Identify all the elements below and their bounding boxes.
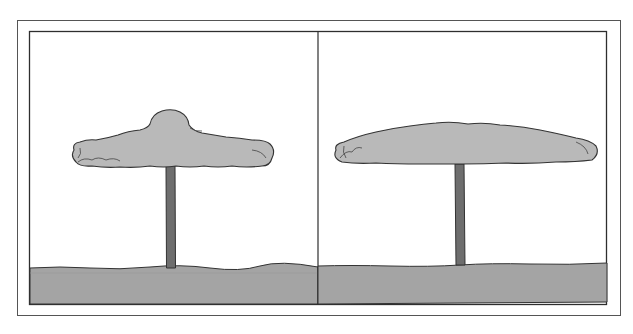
ground-right (318, 263, 607, 304)
stem-left (166, 166, 176, 268)
mushroom-cloud-figure (0, 0, 633, 334)
ground-left (30, 263, 318, 304)
stem-right (455, 164, 465, 265)
